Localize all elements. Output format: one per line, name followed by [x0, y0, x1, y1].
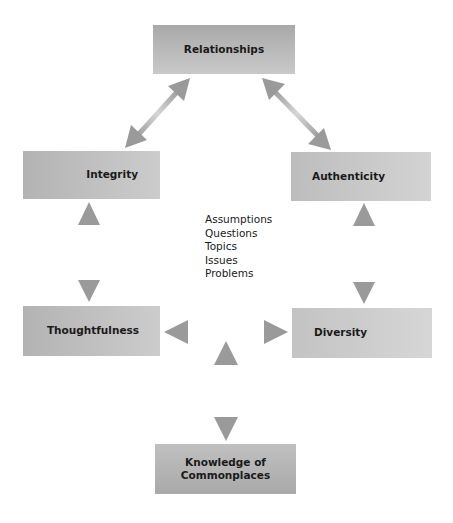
node-knowledge-of-commonplaces: Knowledge of Commonplaces: [155, 444, 296, 494]
center-item: Problems: [205, 267, 272, 281]
node-diversity: Diversity: [292, 308, 432, 358]
arrow-center-knowledge: [214, 341, 238, 441]
center-item: Assumptions: [205, 213, 272, 227]
node-label-line1: Knowledge of: [185, 456, 266, 469]
node-thoughtfulness: Thoughtfulness: [23, 306, 160, 356]
node-label: Thoughtfulness: [47, 324, 139, 337]
node-label-line2: Commonplaces: [181, 469, 270, 482]
arrow-authenticity-diversity: [353, 203, 375, 304]
node-authenticity: Authenticity: [291, 152, 431, 201]
node-integrity: Integrity: [23, 151, 160, 199]
center-item: Topics: [205, 240, 272, 254]
node-label: Relationships: [184, 43, 264, 56]
node-relationships: Relationships: [153, 25, 295, 74]
node-label: Diversity: [314, 326, 367, 339]
node-label: Integrity: [86, 168, 138, 181]
node-label: Authenticity: [312, 170, 385, 183]
arrow-thoughtfulness-diversity: [164, 320, 288, 344]
center-items-list: Assumptions Questions Topics Issues Prob…: [205, 213, 272, 281]
arrow-integrity-thoughtfulness: [78, 202, 100, 302]
center-item: Questions: [205, 227, 272, 241]
center-item: Issues: [205, 254, 272, 268]
arrow-relationships-integrity: [125, 78, 190, 148]
arrow-relationships-authenticity: [262, 78, 331, 150]
